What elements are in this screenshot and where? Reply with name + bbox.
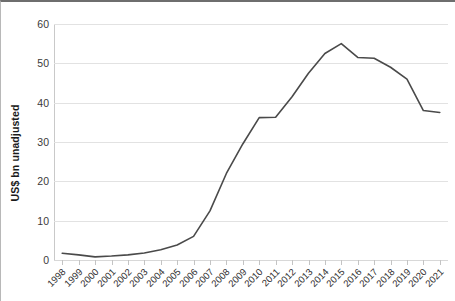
chart-figure: US$ bn unadjusted 0102030405060 19981999…	[0, 0, 455, 301]
y-tick-label-0: 0	[23, 254, 49, 266]
series-line-svg	[54, 24, 448, 260]
plot-area	[54, 24, 448, 260]
y-tick-label-20: 20	[23, 175, 49, 187]
x-axis-tick-labels: 1998199920002001200220032004200520062007…	[54, 264, 448, 301]
y-tick-label-40: 40	[23, 97, 49, 109]
y-tick-label-10: 10	[23, 215, 49, 227]
y-tick-label-60: 60	[23, 18, 49, 30]
y-tick-label-50: 50	[23, 57, 49, 69]
y-axis-tick-labels: 0102030405060	[23, 2, 49, 301]
y-axis-title-text: US$ bn unadjusted	[9, 104, 21, 201]
y-tick-label-30: 30	[23, 136, 49, 148]
series-line-us-bn-unadjusted	[62, 44, 440, 257]
